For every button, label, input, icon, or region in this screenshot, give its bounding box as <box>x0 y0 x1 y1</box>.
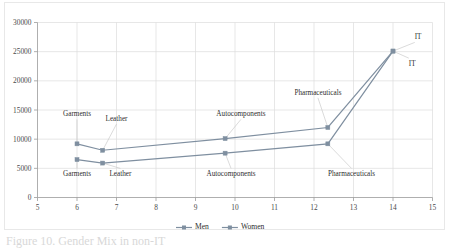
svg-text:30000: 30000 <box>13 18 32 27</box>
svg-text:Garments: Garments <box>63 170 91 178</box>
svg-text:8: 8 <box>154 203 158 212</box>
svg-text:Leather: Leather <box>106 115 129 123</box>
annotation-labels: GarmentsLeatherAutocomponentsPharmaceuti… <box>63 33 422 178</box>
svg-text:Women: Women <box>241 222 265 231</box>
x-axis-tick-labels: 56789101112131415 <box>36 198 437 212</box>
svg-text:14: 14 <box>389 203 397 212</box>
svg-text:12: 12 <box>310 203 318 212</box>
svg-text:0: 0 <box>28 193 32 202</box>
svg-text:20000: 20000 <box>13 76 32 85</box>
svg-text:5000: 5000 <box>17 164 32 173</box>
svg-text:Autocomponents: Autocomponents <box>216 110 265 118</box>
svg-text:10: 10 <box>231 203 239 212</box>
svg-text:5: 5 <box>36 203 40 212</box>
svg-text:Garments: Garments <box>63 110 91 118</box>
svg-text:7: 7 <box>115 203 119 212</box>
svg-text:11: 11 <box>271 203 278 212</box>
svg-text:13: 13 <box>350 203 358 212</box>
svg-text:IT: IT <box>415 33 422 41</box>
figure-caption: Figure 10. Gender Mix in non-IT <box>0 236 453 249</box>
chart-figure: 050001000015000200002500030000 567891011… <box>0 0 453 249</box>
chart-legend: MenWomen <box>176 222 265 231</box>
svg-text:Autocomponents: Autocomponents <box>206 170 255 178</box>
svg-text:Leather: Leather <box>109 170 132 178</box>
svg-text:Pharmaceuticals: Pharmaceuticals <box>328 170 375 178</box>
svg-text:25000: 25000 <box>13 47 32 56</box>
svg-text:IT: IT <box>409 60 416 68</box>
figure-caption-text: Figure 10. Gender Mix in non-IT <box>6 236 165 249</box>
svg-text:9: 9 <box>194 203 198 212</box>
y-axis-tick-labels: 050001000015000200002500030000 <box>13 18 37 202</box>
svg-text:6: 6 <box>75 203 79 212</box>
svg-text:Men: Men <box>195 222 209 231</box>
svg-text:15: 15 <box>429 203 437 212</box>
svg-text:Pharmaceuticals: Pharmaceuticals <box>294 89 341 97</box>
svg-text:10000: 10000 <box>13 135 32 144</box>
line-chart-plot: 050001000015000200002500030000 567891011… <box>0 0 453 249</box>
annotation-leader-lines <box>77 42 415 168</box>
svg-text:15000: 15000 <box>13 106 32 115</box>
